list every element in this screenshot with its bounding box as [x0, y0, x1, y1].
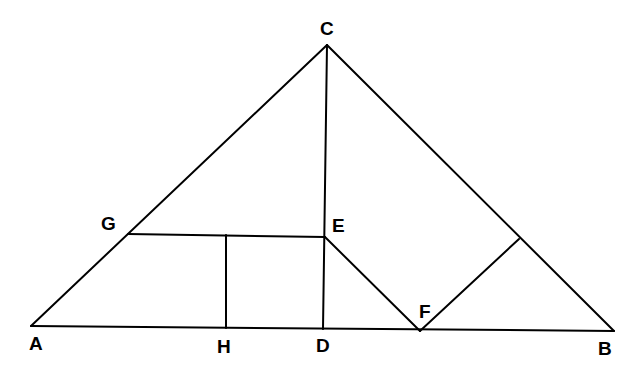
label-g: G — [101, 213, 116, 234]
segment-cd — [323, 45, 327, 329]
segment-cb — [327, 45, 614, 331]
label-h: H — [217, 336, 231, 357]
label-f: F — [419, 301, 431, 322]
segment-ef — [325, 237, 420, 331]
geometry-diagram: C G E F A H D B — [0, 0, 644, 373]
label-e: E — [332, 215, 345, 236]
segment-f-perpendicular — [420, 239, 519, 331]
label-b: B — [598, 338, 612, 359]
label-c: C — [320, 18, 334, 39]
segment-ac — [31, 45, 327, 326]
label-d: D — [316, 335, 330, 356]
label-a: A — [29, 333, 43, 354]
